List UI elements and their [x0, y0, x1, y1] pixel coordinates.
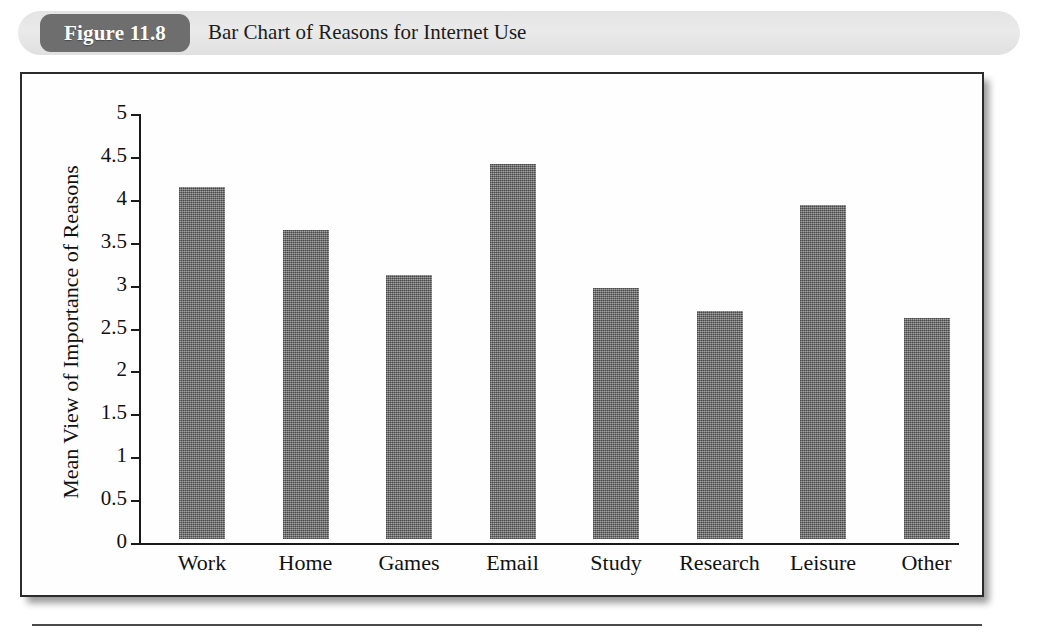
y-axis-tick-mark [131, 286, 140, 288]
y-axis-title: Mean View of Importance of Reasons [58, 122, 84, 542]
chart-frame: 00.511.522.533.544.55 Mean View of Impor… [20, 72, 984, 597]
y-axis-tick-label: 3 [43, 272, 127, 297]
y-axis-tick-mark [131, 329, 140, 331]
y-axis-tick-label: 4.5 [43, 143, 127, 168]
y-axis-tick-mark [131, 157, 140, 159]
y-axis-tick-mark [131, 114, 140, 116]
y-axis-tick-label: 1 [43, 443, 127, 468]
figure-number-label: Figure 11.8 [64, 21, 166, 46]
y-axis-tick-label: 2.5 [43, 315, 127, 340]
y-axis-tick-mark [131, 371, 140, 373]
bar [593, 288, 639, 539]
y-axis-tick-label: 4 [43, 186, 127, 211]
y-axis-tick-mark [131, 543, 140, 545]
bar [697, 311, 743, 539]
y-axis-tick-label: 2 [43, 357, 127, 382]
y-axis-tick-mark [131, 200, 140, 202]
page-divider-rule [32, 624, 982, 626]
bar [490, 164, 536, 539]
x-axis-line [139, 543, 959, 545]
x-axis-category-label: Other [857, 550, 997, 576]
y-axis-tick-label: 5 [43, 100, 127, 125]
bar [800, 205, 846, 539]
figure-number-badge: Figure 11.8 [40, 14, 190, 52]
figure-caption: Bar Chart of Reasons for Internet Use [208, 20, 526, 45]
y-axis-tick-label: 1.5 [43, 400, 127, 425]
bar [283, 230, 329, 539]
y-axis-tick-mark [131, 243, 140, 245]
bar [386, 275, 432, 539]
y-axis-tick-mark [131, 414, 140, 416]
y-axis-tick-label: 0 [43, 529, 127, 554]
y-axis-tick-label: 3.5 [43, 229, 127, 254]
y-axis-tick-mark [131, 500, 140, 502]
bar [179, 187, 225, 539]
bar [904, 318, 950, 539]
bar-chart-plot-area: 00.511.522.533.544.55 Mean View of Impor… [22, 74, 982, 595]
figure-header-band: Figure 11.8 Bar Chart of Reasons for Int… [18, 11, 1020, 55]
y-axis-tick-label: 0.5 [43, 486, 127, 511]
y-axis-tick-mark [131, 457, 140, 459]
